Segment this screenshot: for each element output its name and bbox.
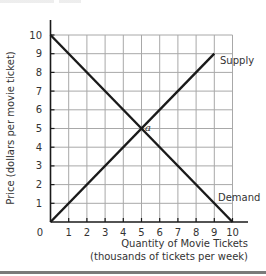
- x-tick-label: 6: [157, 227, 163, 238]
- x-tick-label: 1: [66, 227, 72, 238]
- x-tick-label: 3: [102, 227, 108, 238]
- y-tick-label: 1: [36, 198, 42, 209]
- x-axis-label: Quantity of Movie Tickets: [121, 238, 248, 249]
- equilibrium-label: a: [145, 122, 151, 133]
- x-tick-label: 2: [84, 227, 90, 238]
- y-tick-label: 3: [36, 160, 42, 171]
- y-tick-label: 5: [36, 123, 42, 134]
- y-tick-label: 8: [36, 67, 42, 78]
- supply-curve: [51, 54, 215, 222]
- x-tick-label: 5: [138, 227, 144, 238]
- bottom-rule: [0, 271, 266, 274]
- supply-demand-chart: 01234567891012345678910 Price (dollars p…: [0, 0, 266, 276]
- demand-label: Demand: [218, 192, 260, 203]
- y-tick-label: 6: [36, 104, 42, 115]
- x-tick-label: 8: [193, 227, 199, 238]
- x-tick-label: 0: [37, 227, 43, 238]
- supply-label: Supply: [220, 55, 254, 66]
- y-axis-label: Price (dollars per movie ticket): [5, 51, 16, 205]
- x-tick-label: 7: [175, 227, 181, 238]
- y-tick-label: 9: [36, 48, 42, 59]
- y-tick-label: 4: [36, 142, 42, 153]
- x-tick-label: 10: [226, 227, 239, 238]
- y-tick-label: 7: [36, 86, 42, 97]
- y-tick-label: 10: [29, 30, 42, 41]
- x-tick-label: 9: [211, 227, 217, 238]
- y-tick-label: 2: [36, 179, 42, 190]
- x-axis-label-units: (thousands of tickets per week): [90, 251, 248, 262]
- x-tick-label: 4: [120, 227, 126, 238]
